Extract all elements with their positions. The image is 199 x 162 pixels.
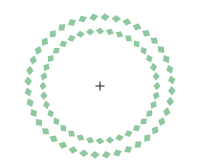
ring-element — [60, 41, 68, 47]
ring-element — [90, 151, 99, 159]
ring-element — [58, 24, 65, 30]
ring-element — [113, 149, 122, 156]
ring-element — [53, 118, 59, 126]
ring-element — [166, 65, 173, 74]
ring-element — [163, 107, 170, 116]
ring-element — [168, 86, 176, 95]
ring-element — [39, 82, 46, 91]
ring-element — [40, 72, 47, 80]
ring-element — [144, 134, 150, 141]
ring-element — [168, 75, 175, 84]
ring-element — [26, 66, 34, 75]
ring-element — [86, 28, 95, 35]
ring-element — [106, 28, 114, 35]
ring-element — [40, 91, 47, 100]
ring-element — [133, 23, 142, 30]
ring-element — [124, 130, 132, 137]
ring-element — [68, 131, 75, 137]
ring-element — [25, 87, 32, 96]
ring-element — [47, 109, 54, 117]
ring-element — [24, 76, 32, 85]
ring-element — [146, 54, 153, 62]
ring-element — [147, 110, 153, 117]
ring-element — [135, 141, 142, 147]
ring-element — [61, 125, 67, 132]
ring-element — [163, 55, 170, 63]
ring-element — [59, 142, 68, 149]
ring-element — [158, 117, 165, 126]
ring-element — [102, 151, 111, 158]
ring-element — [122, 18, 131, 25]
ring-element — [166, 97, 174, 106]
ring-element — [142, 30, 150, 36]
ring-element — [76, 31, 85, 38]
ring-element — [30, 56, 37, 65]
ring-element — [153, 91, 160, 99]
concentric-rings-figure — [0, 0, 199, 162]
ring-element — [124, 146, 132, 153]
ring-element — [78, 16, 87, 23]
ring-element — [141, 47, 147, 55]
ring-element — [96, 27, 105, 34]
ring-element — [140, 118, 147, 124]
ring-element — [43, 63, 49, 71]
ring-element — [100, 13, 109, 21]
ring-element — [53, 48, 60, 54]
ring-element — [35, 46, 42, 55]
ring-element — [158, 46, 164, 53]
ring-element — [153, 82, 160, 91]
ring-element — [77, 135, 85, 141]
ring-element — [30, 109, 37, 117]
fixation-cross-icon — [96, 82, 105, 91]
ring-element — [96, 137, 105, 144]
ring-element — [50, 136, 58, 142]
ring-element — [133, 125, 141, 131]
ring-element — [150, 101, 156, 109]
ring-element — [125, 36, 132, 42]
ring-element — [43, 100, 50, 109]
ring-element — [36, 119, 42, 126]
ring-element — [150, 63, 157, 72]
ring-element — [68, 146, 77, 153]
ring-element — [48, 55, 54, 62]
ring-element — [50, 30, 56, 37]
ring-element — [27, 98, 34, 107]
ring-element — [152, 126, 158, 134]
ring-element — [42, 38, 48, 46]
ring-element — [68, 19, 76, 26]
ring-element — [105, 137, 114, 144]
ring-element — [86, 137, 94, 144]
ring-element — [151, 38, 158, 44]
ring-element — [115, 134, 124, 141]
ring-element — [153, 72, 160, 81]
ring-element — [79, 149, 88, 157]
ring-element — [111, 15, 120, 23]
ring-element — [134, 41, 140, 48]
ring-element — [67, 35, 75, 42]
illusion-figure — [0, 0, 199, 162]
ring-element — [116, 31, 124, 37]
ring-element — [89, 14, 98, 21]
ring-element — [42, 128, 49, 134]
